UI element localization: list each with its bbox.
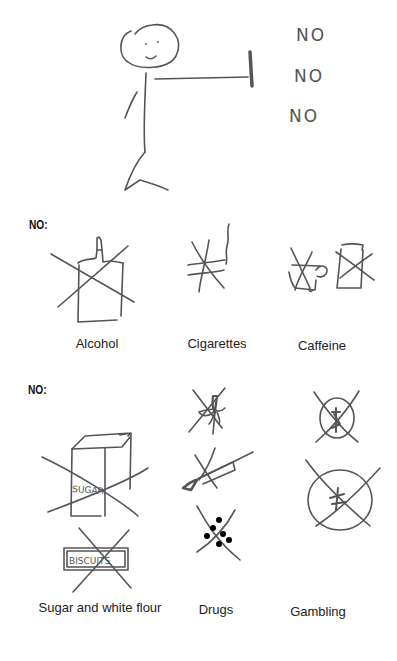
no-shout-1: NO [296,25,326,45]
crossed-out-bottle-icon [0,210,140,320]
caption-cigarettes: Cigarettes [172,336,262,351]
caption-gambling: Gambling [286,604,350,619]
no-shout-3: NO [289,106,319,126]
caption-drugs: Drugs [196,602,236,617]
section2-label: NO: [28,383,47,397]
crossed-out-sugar-box-icon: SUGAR [30,420,160,525]
stick-figure-icon [0,0,397,200]
crossed-out-gambling-icon [280,390,397,560]
sugar-sketch-text: SUGAR [72,484,104,496]
crossed-out-cigarette-icon [180,210,250,310]
biscuits-sketch-text: BISCUITS [69,556,111,566]
crossed-out-biscuits-icon: BISCUITS [55,520,145,610]
crossed-out-drugs-icon [175,380,265,560]
caption-alcohol: Alcohol [62,336,132,351]
caption-caffeine: Caffeine [292,338,352,353]
no-shout-2: NO [294,66,324,86]
caption-sugar-white-flour: Sugar and white flour [35,600,165,615]
crossed-out-cups-icon [280,210,390,310]
